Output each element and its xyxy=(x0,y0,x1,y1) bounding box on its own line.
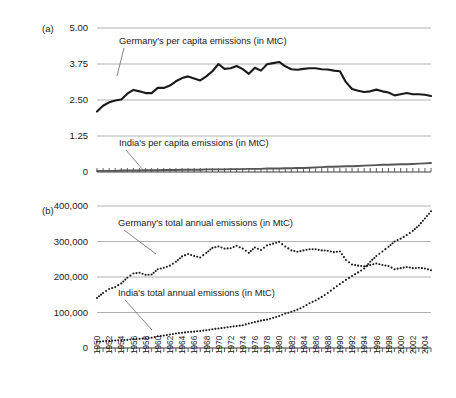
data-point xyxy=(369,264,371,266)
x-tick-label: 1986 xyxy=(312,335,321,354)
data-point xyxy=(272,317,274,319)
data-point xyxy=(381,264,383,266)
data-point xyxy=(318,249,320,251)
data-point xyxy=(281,314,283,316)
data-point xyxy=(266,319,268,321)
data-point xyxy=(111,287,113,289)
annotation-germany-total: Germany's total annual emissions (in MtC… xyxy=(118,218,293,228)
data-point xyxy=(416,226,418,228)
data-point xyxy=(233,246,235,248)
data-point xyxy=(367,263,369,265)
data-point xyxy=(96,297,98,299)
panel-a-label: (a) xyxy=(42,23,54,34)
data-point xyxy=(391,242,393,244)
data-point xyxy=(360,265,362,267)
x-tick-label: 1984 xyxy=(300,335,309,354)
data-point xyxy=(363,265,365,267)
data-point xyxy=(98,295,100,297)
x-tick-label: 2002 xyxy=(409,335,418,354)
data-point xyxy=(193,331,195,333)
y-tick-label: 400,000 xyxy=(54,200,88,211)
data-point xyxy=(333,251,335,253)
data-point xyxy=(290,311,292,313)
data-point xyxy=(420,222,422,224)
data-point xyxy=(287,312,289,314)
data-point xyxy=(266,244,268,246)
data-point xyxy=(135,272,137,274)
x-tick-label: 1952 xyxy=(105,335,114,354)
data-point xyxy=(214,246,216,248)
data-point xyxy=(260,249,262,251)
data-point xyxy=(290,249,292,251)
data-point xyxy=(184,331,186,333)
data-point xyxy=(275,242,277,244)
data-point xyxy=(339,283,341,285)
data-point xyxy=(151,337,153,339)
data-point xyxy=(145,274,147,276)
y-tick-label: 0 xyxy=(83,342,88,353)
data-point xyxy=(389,244,391,246)
data-point xyxy=(205,329,207,331)
y-tick-label: 3.75 xyxy=(70,58,89,69)
data-point xyxy=(223,248,225,250)
data-point xyxy=(117,284,119,286)
x-tick-label: 1966 xyxy=(190,335,199,354)
data-point xyxy=(181,255,183,257)
data-point xyxy=(406,266,408,268)
data-point xyxy=(354,264,356,266)
data-point xyxy=(220,327,222,329)
data-point xyxy=(169,265,171,267)
data-point xyxy=(153,272,155,274)
data-point xyxy=(318,298,320,300)
data-point xyxy=(333,287,335,289)
data-point xyxy=(142,273,144,275)
annotation-germany-per-capita: Germany's per capita emissions (in MtC) xyxy=(119,36,287,46)
data-point xyxy=(132,272,134,274)
data-point xyxy=(207,250,209,252)
x-tick-label: 2004 xyxy=(421,335,430,354)
x-tick-label: 1954 xyxy=(117,335,126,354)
data-point xyxy=(187,331,189,333)
data-point xyxy=(199,330,201,332)
data-point xyxy=(102,292,104,294)
data-point xyxy=(102,340,104,342)
data-point xyxy=(412,230,414,232)
data-point xyxy=(400,267,402,269)
data-point xyxy=(239,325,241,327)
data-point xyxy=(208,329,210,331)
data-point xyxy=(172,333,174,335)
data-point xyxy=(217,327,219,329)
data-point xyxy=(108,288,110,290)
data-point xyxy=(202,330,204,332)
data-point xyxy=(181,332,183,334)
x-tick-label: 1978 xyxy=(263,335,272,354)
data-point xyxy=(412,267,414,269)
data-point xyxy=(418,224,420,226)
y-tick-label: 0 xyxy=(83,166,88,177)
x-tick-label: 1994 xyxy=(360,335,369,354)
data-point xyxy=(371,259,373,261)
data-point xyxy=(428,213,430,215)
data-point xyxy=(305,304,307,306)
data-point xyxy=(199,256,201,258)
data-point xyxy=(354,273,356,275)
data-point xyxy=(263,247,265,249)
data-point xyxy=(122,280,124,282)
data-point xyxy=(250,250,252,252)
x-tick-label: 1956 xyxy=(130,335,139,354)
data-point xyxy=(327,250,329,252)
data-point xyxy=(263,319,265,321)
data-point xyxy=(365,265,367,267)
data-point xyxy=(397,239,399,241)
x-tick-label: 1988 xyxy=(324,335,333,354)
data-point xyxy=(230,247,232,249)
data-point xyxy=(351,275,353,277)
data-point xyxy=(299,250,301,252)
data-point xyxy=(372,263,374,265)
data-point xyxy=(160,267,162,269)
data-point xyxy=(324,294,326,296)
data-point xyxy=(209,249,211,251)
data-point xyxy=(196,256,198,258)
data-point xyxy=(157,268,159,270)
data-point xyxy=(100,294,102,296)
